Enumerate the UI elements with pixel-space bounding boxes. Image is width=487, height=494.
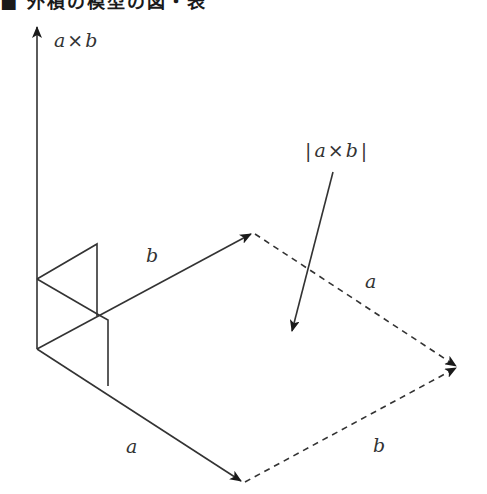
label-magnitude: |a×b| [305,139,367,162]
dashed-vector-a [255,234,456,366]
vector-a [37,349,241,481]
vector-b [37,234,251,349]
dashed-vector-b [245,368,456,482]
magnitude-pointer-arrow [292,172,333,331]
right-angle-marker-upper-diagonal [37,279,99,315]
label-cross-product: a×b [54,29,97,51]
label-dashed-b: b [373,434,385,456]
cross-product-diagram: a×b |a×b| b a a b [0,0,487,494]
label-vector-a: a [126,435,137,457]
right-angle-marker-upper [37,244,97,316]
label-vector-b: b [146,244,158,266]
right-angle-marker-lower [99,315,108,386]
label-dashed-a: a [365,270,376,292]
